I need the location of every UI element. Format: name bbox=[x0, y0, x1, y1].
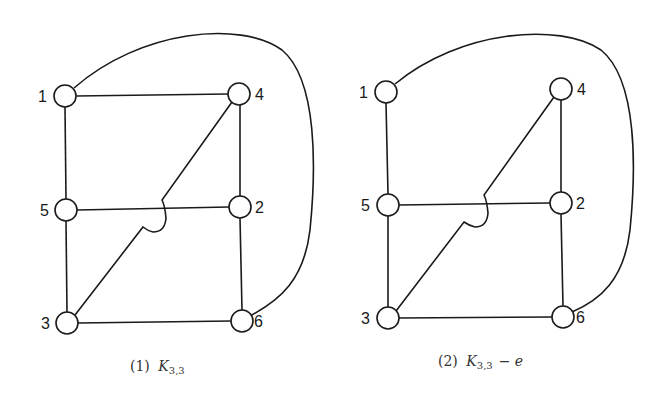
node-label-3: 3 bbox=[41, 315, 50, 332]
node-1 bbox=[54, 85, 76, 107]
edge-5-2 bbox=[399, 203, 550, 205]
edge-1-6-outer-curve bbox=[74, 34, 313, 316]
edge-1-4 bbox=[76, 94, 228, 96]
node-6 bbox=[552, 306, 574, 328]
caption-subscript: 3,3 bbox=[169, 365, 185, 376]
node-1 bbox=[375, 81, 397, 103]
node-label-3: 3 bbox=[361, 310, 370, 327]
node-3 bbox=[377, 307, 399, 329]
node-label-1: 1 bbox=[359, 84, 368, 101]
node-4 bbox=[228, 83, 250, 105]
graph-figures: 1 4 5 2 3 6 (1) K3,3 1 4 5 2 3 6 (2) bbox=[0, 0, 664, 404]
node-5 bbox=[55, 199, 77, 221]
edge-5-2 bbox=[77, 207, 229, 210]
figure-k33: 1 4 5 2 3 6 (1) K3,3 bbox=[38, 34, 313, 376]
caption-figure-2: (2) K3,3− e bbox=[438, 353, 523, 371]
node-label-5: 5 bbox=[40, 202, 49, 219]
caption-subscript: 3,3 bbox=[477, 360, 493, 371]
edge-5-3 bbox=[66, 221, 67, 312]
node-2 bbox=[550, 192, 572, 214]
node-4 bbox=[550, 78, 572, 100]
node-label-2: 2 bbox=[255, 199, 264, 216]
edge-3-6 bbox=[399, 317, 552, 318]
node-label-6: 6 bbox=[576, 309, 585, 326]
node-label-5: 5 bbox=[361, 197, 370, 214]
node-5 bbox=[377, 194, 399, 216]
node-2 bbox=[229, 196, 251, 218]
edge-2-6 bbox=[240, 218, 242, 310]
edge-2-6 bbox=[561, 214, 563, 306]
caption-figure-1: (1) K3,3 bbox=[130, 358, 185, 376]
edge-1-5 bbox=[65, 107, 66, 199]
node-label-6: 6 bbox=[254, 313, 263, 330]
caption-number: (1) bbox=[130, 358, 150, 374]
node-label-4: 4 bbox=[577, 81, 586, 98]
node-label-1: 1 bbox=[38, 88, 47, 105]
edge-1-5 bbox=[386, 103, 388, 194]
edge-3-6 bbox=[78, 321, 231, 323]
edge-1-6-outer-curve bbox=[395, 34, 633, 312]
node-6 bbox=[231, 310, 253, 332]
node-label-2: 2 bbox=[576, 195, 585, 212]
figure-k33-minus-e: 1 4 5 2 3 6 (2) K3,3− e bbox=[359, 34, 633, 371]
caption-suffix: − e bbox=[499, 353, 523, 369]
caption-number: (2) bbox=[438, 353, 458, 369]
node-label-4: 4 bbox=[255, 86, 264, 103]
node-3 bbox=[56, 312, 78, 334]
